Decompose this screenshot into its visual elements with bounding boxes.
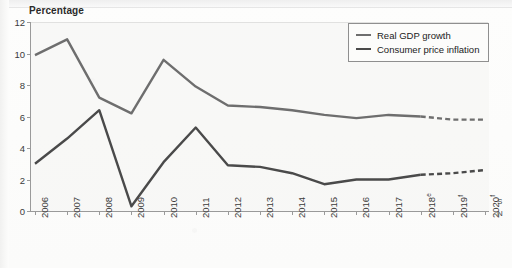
x-tick-label: 2008 xyxy=(103,197,114,218)
x-tick-mark xyxy=(453,211,454,215)
x-tick-label: 2017 xyxy=(393,197,404,218)
x-tick-label: 2014 xyxy=(296,197,307,218)
x-tick-mark xyxy=(196,211,197,215)
x-tick-mark xyxy=(67,211,68,215)
x-tick-label: 2016 xyxy=(360,197,371,218)
x-tick-label: 2010 xyxy=(168,197,179,218)
y-tick-label: 8 xyxy=(3,80,25,91)
source-note-line-1: S xyxy=(497,196,512,208)
chart-plot-area: 024681012 200620072008200920102011201220… xyxy=(30,22,489,212)
legend-swatch-consumer-price-inflation xyxy=(356,48,371,50)
y-tick-mark xyxy=(27,117,31,118)
x-tick-mark xyxy=(35,211,36,215)
legend-item-consumer-price-inflation: Consumer price inflation xyxy=(356,42,479,56)
y-tick-label: 10 xyxy=(3,48,25,59)
x-tick-label: 2015 xyxy=(328,197,339,218)
x-tick-label: 2007 xyxy=(71,197,82,218)
y-tick-mark xyxy=(27,22,31,23)
x-tick-mark xyxy=(260,211,261,215)
y-tick-label: 6 xyxy=(3,111,25,122)
scan-edge-left xyxy=(0,0,9,268)
x-tick-mark xyxy=(485,211,486,215)
series-line-consumer-price-inflation xyxy=(35,110,421,206)
legend-label-real-gdp-growth: Real GDP growth xyxy=(377,30,451,41)
x-tick-mark xyxy=(292,211,293,215)
y-tick-label: 12 xyxy=(3,17,25,28)
source-note-line-2: N xyxy=(497,208,512,220)
x-tick-mark xyxy=(99,211,100,215)
y-tick-mark xyxy=(27,54,31,55)
x-tick-mark xyxy=(164,211,165,215)
source-note: S N xyxy=(497,196,512,220)
y-tick-mark xyxy=(27,180,31,181)
x-tick-label: 2019f xyxy=(457,195,469,218)
x-tick-mark xyxy=(421,211,422,215)
x-tick-label: 2006 xyxy=(39,197,50,218)
y-tick-mark xyxy=(27,85,31,86)
x-tick-mark xyxy=(131,211,132,215)
y-tick-mark xyxy=(27,148,31,149)
x-tick-label: 2013 xyxy=(264,197,275,218)
x-tick-mark xyxy=(389,211,390,215)
x-tick-label: 2018e xyxy=(425,193,437,218)
y-tick-mark xyxy=(27,211,31,212)
y-tick-label: 2 xyxy=(3,174,25,185)
legend-item-real-gdp-growth: Real GDP growth xyxy=(356,28,479,42)
x-tick-label: 2009 xyxy=(135,197,146,218)
page-title: Percentage xyxy=(29,5,84,16)
series-line-consumer-price-inflation-forecast xyxy=(421,170,485,175)
x-tick-label: 2012 xyxy=(232,197,243,218)
x-tick-mark xyxy=(228,211,229,215)
y-tick-label: 4 xyxy=(3,143,25,154)
y-tick-label: 0 xyxy=(3,206,25,217)
x-tick-mark xyxy=(356,211,357,215)
legend-label-consumer-price-inflation: Consumer price inflation xyxy=(377,44,479,55)
x-tick-label: 2011 xyxy=(200,198,211,218)
x-tick-mark xyxy=(324,211,325,215)
legend-swatch-real-gdp-growth xyxy=(356,34,371,36)
series-line-real-gdp-growth-forecast xyxy=(421,117,485,120)
chart-legend: Real GDP growth Consumer price inflation xyxy=(348,23,489,62)
